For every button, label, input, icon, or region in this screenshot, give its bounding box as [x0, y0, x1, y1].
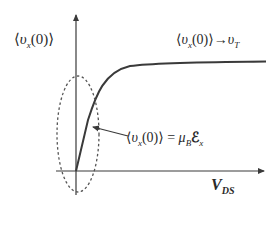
- linear-regime-label: ⟨υx(0)⟩ = μBℰx: [126, 129, 203, 148]
- velocity-curve: [76, 62, 266, 172]
- arrow-icon: →: [214, 32, 228, 47]
- linear-region-ellipse: [57, 76, 99, 192]
- y-axis-label: ⟨υx(0)⟩: [14, 30, 54, 50]
- annotation-arrow: [93, 127, 128, 136]
- x-axis-label: VDS: [211, 176, 234, 196]
- saturation-label: ⟨υx(0)⟩→υT: [176, 31, 239, 50]
